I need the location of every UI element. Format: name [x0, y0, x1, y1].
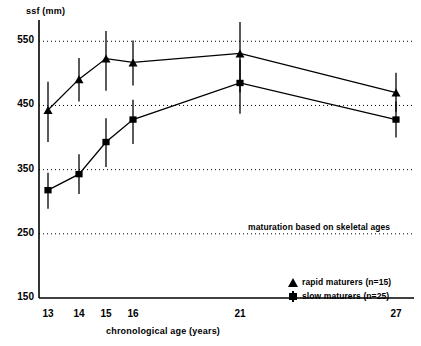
y-tick-label: 150	[0, 291, 34, 302]
data-point-square	[75, 171, 82, 177]
x-tick-label: 16	[121, 308, 145, 319]
data-point-square	[102, 139, 109, 145]
y-tick-label: 550	[0, 34, 34, 45]
x-tick-label: 14	[67, 308, 91, 319]
x-tick-label: 15	[94, 308, 118, 319]
x-tick-label: 21	[228, 308, 252, 319]
triangle-marker-icon	[288, 277, 298, 287]
legend-label-rapid: rapid maturers (n=15)	[302, 277, 391, 287]
data-point-square	[392, 116, 399, 122]
y-tick-label: 250	[0, 227, 34, 238]
legend-label-slow: slow maturers (n=25)	[302, 291, 389, 301]
series-slow-maturers	[44, 60, 399, 209]
data-point-triangle	[392, 89, 401, 97]
square-marker-icon	[288, 291, 298, 301]
chart-figure: ssf (mm) chronological age (years) matur…	[0, 0, 421, 346]
y-tick-label: 350	[0, 163, 34, 174]
y-tick-label: 450	[0, 98, 34, 109]
data-point-square	[129, 116, 136, 122]
data-point-square	[236, 80, 243, 86]
x-tick-label: 27	[384, 308, 408, 319]
legend-item-rapid-maturers: rapid maturers (n=15)	[288, 277, 391, 287]
data-point-square	[44, 187, 51, 193]
series-line	[48, 53, 396, 109]
series-rapid-maturers	[44, 22, 401, 142]
skeletal-age-annotation: maturation based on skeletal ages	[248, 222, 390, 232]
x-tick-label: 13	[36, 308, 60, 319]
series-line	[48, 83, 396, 190]
legend-item-slow-maturers: slow maturers (n=25)	[288, 291, 389, 301]
